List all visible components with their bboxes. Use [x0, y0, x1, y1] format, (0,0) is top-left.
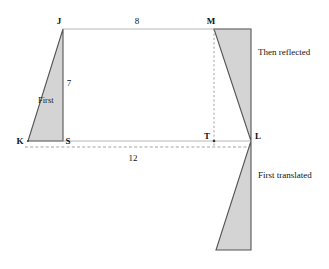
vertex-label-L: L — [255, 131, 261, 141]
vertex-label-T: T — [204, 131, 210, 141]
first-triangle — [28, 29, 63, 141]
translated-annotation: First translated — [258, 170, 312, 180]
translated-triangle — [216, 141, 251, 250]
reflected-triangle — [214, 29, 251, 141]
reflected-annotation: Then reflected — [258, 47, 311, 57]
geometry-figure: J M K S T L 8 7 12 First Then reflected … — [0, 0, 329, 269]
measure-label-top: 8 — [135, 16, 140, 26]
vertex-label-K: K — [16, 136, 23, 146]
vertex-label-M: M — [207, 16, 216, 26]
measure-label-base: 12 — [129, 153, 138, 163]
point-marker-T — [213, 140, 216, 143]
vertex-label-J: J — [57, 16, 62, 26]
first-triangle-label: First — [38, 95, 54, 105]
geometry-canvas: J M K S T L 8 7 12 First Then reflected … — [0, 0, 329, 269]
point-marker-K — [27, 140, 29, 142]
measure-label-height: 7 — [67, 78, 72, 88]
vertex-label-S: S — [65, 136, 70, 146]
